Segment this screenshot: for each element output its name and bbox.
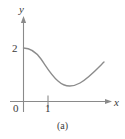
y-axis-label: y	[19, 4, 24, 15]
x-tick-label-1: 1	[45, 103, 51, 114]
x-axis-arrowhead	[105, 99, 112, 104]
y-tick-label-2: 2	[12, 43, 18, 54]
y-axis-arrowhead	[21, 16, 26, 23]
figure-container: y x 2 0 1 (a)	[0, 0, 125, 139]
figure-caption: (a)	[0, 121, 125, 131]
origin-label: 0	[13, 103, 19, 114]
curve-path	[24, 48, 105, 86]
plot-canvas	[0, 0, 125, 139]
x-axis-label: x	[114, 97, 119, 108]
